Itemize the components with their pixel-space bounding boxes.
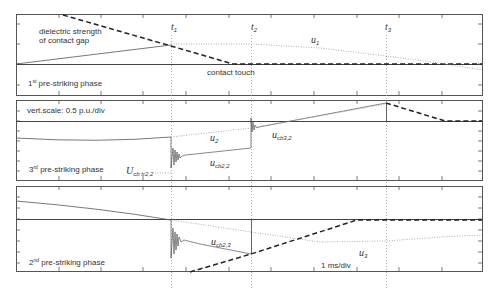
ucb32-sub: cb3,2: [277, 135, 292, 141]
phase-label-1: 1st pre-striking phase: [28, 77, 102, 88]
u1-dotted-curve: [171, 44, 482, 70]
phase-label-2: 2nd pre-striking phase: [29, 256, 105, 267]
ucbtr22-label: Ucb tr2,2: [126, 166, 153, 179]
time-scale-label: 1 ms/div: [321, 261, 351, 270]
vert-scale-label: vert.scale: 0.5 p.u./div: [27, 106, 105, 115]
y-ticks: [16, 24, 482, 263]
u3-voltage-curve: [16, 201, 171, 220]
ucb23-label: ucb2,3: [211, 237, 231, 250]
contact-touch-label: contact touch: [207, 68, 255, 77]
ucbtr22-sub: cb tr2,2: [133, 171, 153, 177]
t1-marker: t1: [171, 22, 177, 35]
u1-label: u1: [311, 35, 319, 48]
u3-label: u3: [359, 248, 367, 261]
t3-marker: t3: [385, 22, 391, 35]
u2-label: u2: [210, 133, 218, 146]
panel-frames: [17, 15, 483, 272]
t3-sub: 3: [388, 27, 391, 33]
ucb22-sub: cb2,2: [215, 163, 230, 169]
x-ticks: [59, 14, 442, 271]
u2-voltage-curve: [16, 137, 171, 140]
ucb32-label: ucb3,2: [272, 130, 292, 143]
dielectric-strength-curve: [63, 15, 482, 64]
dielectric-line-1: dielectric strength: [39, 27, 102, 36]
t2-marker: t2: [251, 22, 257, 35]
ucb23-sub: cb2,3: [216, 242, 231, 248]
phase-text: pre-striking phase: [36, 79, 102, 88]
t1-sub: 1: [174, 27, 177, 33]
u3-sub: 3: [364, 253, 367, 259]
time-marker-lines: [172, 35, 387, 289]
dielectric-line-2: of contact gap: [39, 36, 102, 45]
phase-text: pre-striking phase: [38, 165, 104, 174]
dielectric-strength-label: dielectric strength of contact gap: [39, 27, 102, 45]
phase-text: pre-striking phase: [39, 258, 105, 267]
u1-sub: 1: [316, 40, 319, 46]
dielectric-strength-panel-2: [386, 103, 482, 121]
t2-sub: 2: [254, 27, 257, 33]
phase-label-3: 3rd pre-striking phase: [29, 163, 104, 174]
u2-sub: 2: [215, 138, 218, 144]
u1-voltage-curve: [16, 45, 171, 64]
ucb22-label: ucb2,2: [210, 158, 230, 171]
